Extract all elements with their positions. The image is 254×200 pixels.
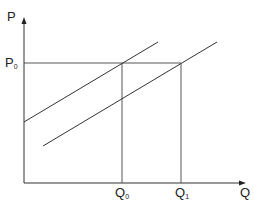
y-axis-arrow-icon — [22, 17, 27, 24]
x-axis-label: Q — [240, 186, 250, 199]
p0-label: P0 — [5, 56, 18, 70]
supply-curve-original — [24, 42, 158, 122]
supply-curve-shifted-right — [43, 42, 217, 146]
y-axis-label: P — [7, 10, 16, 23]
q1-label: Q1 — [175, 186, 189, 200]
q0-label: Q0 — [115, 186, 129, 200]
supply-diagram — [0, 0, 254, 200]
